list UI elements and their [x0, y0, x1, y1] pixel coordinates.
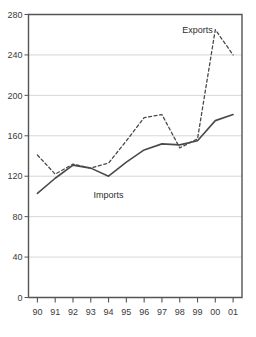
y-axis-tick-label: 240	[7, 50, 22, 60]
x-axis-tick-label: 90	[32, 307, 42, 317]
y-axis-tick-label: 160	[7, 131, 22, 141]
x-axis-tick-label: 01	[228, 307, 238, 317]
chart-container: 04080120160200240280 9091929394959697989…	[0, 0, 256, 337]
y-axis-tick-label: 120	[7, 171, 22, 181]
y-axis-tick-label: 80	[12, 212, 22, 222]
y-axis-tick-label: 280	[7, 10, 22, 20]
x-axis-tick-label: 94	[104, 307, 114, 317]
y-axis-tick-label: 0	[17, 293, 22, 303]
x-axis-tick-label: 92	[68, 307, 78, 317]
chart-background	[0, 0, 256, 337]
series-label-exports: Exports	[182, 25, 213, 35]
x-axis-tick-label: 93	[86, 307, 96, 317]
y-axis-tick-label: 40	[12, 252, 22, 262]
y-axis-tick-label: 200	[7, 91, 22, 101]
x-axis-tick-label: 00	[210, 307, 220, 317]
x-axis-tick-label: 98	[175, 307, 185, 317]
x-axis-tick-label: 91	[50, 307, 60, 317]
line-chart: 04080120160200240280 9091929394959697989…	[0, 0, 256, 337]
x-axis-tick-label: 99	[193, 307, 203, 317]
series-label-imports: Imports	[94, 190, 125, 200]
x-axis-tick-label: 95	[121, 307, 131, 317]
x-axis-tick-label: 97	[157, 307, 167, 317]
x-axis-tick-label: 96	[139, 307, 149, 317]
